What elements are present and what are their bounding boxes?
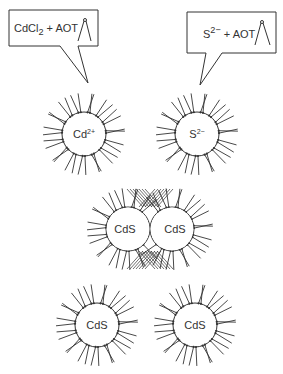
micelle-label-cds: CdS: [184, 319, 205, 331]
formula-suffix: + AOT: [221, 28, 256, 40]
callout-left-text: CdCl2 + AOT: [14, 22, 78, 37]
micelle-label-cds: CdS: [114, 223, 135, 235]
micelle-label-cd: Cd2+: [73, 128, 95, 141]
micelle-label-cds: CdS: [164, 223, 185, 235]
diagram-canvas: [0, 0, 283, 374]
micelle-label-s: S2−: [189, 128, 204, 141]
callout-right-text: S2− + AOT: [203, 25, 255, 40]
micelle-label-cds: CdS: [86, 319, 107, 331]
formula-base: CdCl: [14, 22, 38, 34]
formula-superscript: 2−: [210, 25, 220, 35]
formula-suffix: + AOT: [44, 22, 79, 34]
